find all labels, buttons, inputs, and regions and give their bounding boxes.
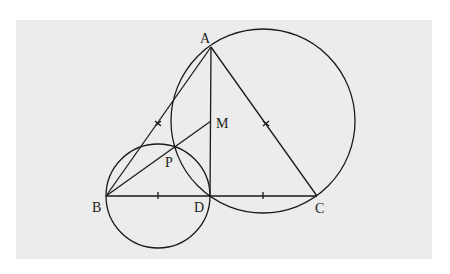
label-B: B	[92, 200, 101, 215]
segment-AB	[106, 47, 211, 196]
label-A: A	[200, 31, 211, 46]
geometry-diagram: A B C D M P	[0, 0, 450, 274]
label-C: C	[315, 201, 324, 216]
label-P: P	[165, 155, 173, 170]
label-M: M	[216, 116, 229, 131]
label-D: D	[194, 200, 204, 215]
